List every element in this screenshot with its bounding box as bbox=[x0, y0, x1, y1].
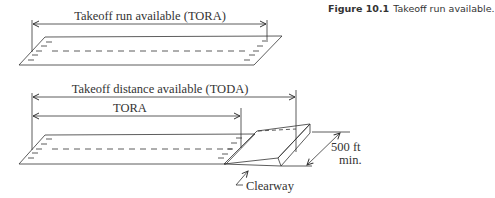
width-label-min: min. bbox=[339, 153, 362, 167]
bottom-runway-diagram bbox=[19, 90, 350, 185]
top-runway-surface bbox=[19, 36, 282, 65]
width-label-500ft: 500 ft bbox=[331, 140, 361, 154]
top-right-threshold-marks bbox=[244, 41, 268, 60]
top-runway-diagram bbox=[19, 20, 282, 65]
toda-label: Takeoff distance available (TODA) bbox=[72, 82, 249, 96]
tora-label-bottom: TORA bbox=[113, 101, 147, 115]
bottom-right-threshold-marks bbox=[218, 138, 242, 158]
clearway-label: Clearway bbox=[246, 179, 295, 193]
tora-label-top: Takeoff run available (TORA) bbox=[74, 9, 226, 23]
clearway-block bbox=[224, 124, 310, 166]
